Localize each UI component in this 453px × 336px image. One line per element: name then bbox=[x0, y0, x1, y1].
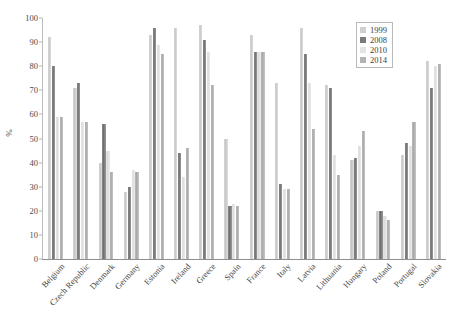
x-tick-label: Greece bbox=[194, 262, 217, 286]
bar bbox=[182, 177, 185, 259]
legend-item: 1999 bbox=[360, 25, 387, 35]
bar bbox=[362, 131, 365, 259]
legend-label: 2010 bbox=[370, 46, 387, 55]
legend-swatch bbox=[360, 57, 366, 63]
legend-item: 2008 bbox=[360, 35, 387, 45]
bar bbox=[48, 37, 51, 259]
bar bbox=[300, 28, 303, 259]
y-tick-label: 40 bbox=[14, 158, 38, 167]
x-tick-label: Portugal bbox=[393, 262, 419, 289]
bar bbox=[337, 175, 340, 259]
bar bbox=[211, 85, 214, 259]
bar bbox=[232, 204, 235, 259]
x-tick-label: Hungary bbox=[342, 262, 369, 290]
bar-group bbox=[194, 18, 219, 259]
bar bbox=[236, 206, 239, 259]
bar bbox=[304, 54, 307, 259]
bar-group bbox=[169, 18, 194, 259]
bar bbox=[412, 122, 415, 259]
bar bbox=[283, 189, 286, 259]
bar bbox=[409, 146, 412, 259]
x-tick-label: Latvia bbox=[297, 262, 318, 284]
bar bbox=[186, 148, 189, 259]
y-tick-label: 100 bbox=[14, 14, 38, 23]
bar bbox=[329, 88, 332, 259]
bar bbox=[426, 61, 429, 259]
bar bbox=[354, 158, 357, 259]
bar bbox=[250, 35, 253, 259]
bar bbox=[275, 83, 278, 259]
bar-group bbox=[219, 18, 244, 259]
bar bbox=[110, 172, 113, 259]
legend-swatch bbox=[360, 47, 366, 53]
bar-group bbox=[295, 18, 320, 259]
bar bbox=[99, 163, 102, 259]
bar bbox=[56, 117, 59, 259]
bar bbox=[405, 143, 408, 259]
bar bbox=[325, 85, 328, 259]
bar bbox=[124, 192, 127, 259]
x-axis-tick-labels: BelgiumCzech RepublicDenmarkGermanyEston… bbox=[0, 262, 453, 336]
bar bbox=[199, 25, 202, 259]
y-tick-label: 60 bbox=[14, 110, 38, 119]
chart-legend: 1999200820102014 bbox=[356, 22, 393, 68]
bar bbox=[358, 146, 361, 259]
bar bbox=[149, 35, 152, 259]
y-tick-label: 10 bbox=[14, 231, 38, 240]
y-tick-label: 50 bbox=[14, 134, 38, 143]
bar bbox=[52, 66, 55, 259]
bar bbox=[81, 122, 84, 259]
bar bbox=[102, 124, 105, 259]
bar-group bbox=[421, 18, 446, 259]
bar bbox=[60, 117, 63, 259]
bar bbox=[401, 155, 404, 259]
x-tick-label: Denmark bbox=[88, 262, 116, 291]
bar bbox=[157, 45, 160, 259]
bar bbox=[434, 66, 437, 259]
bar bbox=[128, 187, 131, 259]
x-tick-label: Estonia bbox=[143, 262, 167, 287]
bar bbox=[430, 88, 433, 259]
bar bbox=[438, 64, 441, 259]
bar bbox=[77, 83, 80, 259]
y-tick-label: 90 bbox=[14, 38, 38, 47]
bar bbox=[312, 129, 315, 259]
bar bbox=[379, 211, 382, 259]
bar-group bbox=[245, 18, 270, 259]
bar bbox=[203, 40, 206, 259]
x-tick-label: Slovakia bbox=[417, 262, 444, 290]
bar bbox=[161, 54, 164, 259]
legend-item: 2014 bbox=[360, 55, 387, 65]
bar-group bbox=[270, 18, 295, 259]
bar bbox=[383, 216, 386, 259]
bar bbox=[228, 206, 231, 259]
bar bbox=[287, 189, 290, 259]
legend-label: 2008 bbox=[370, 36, 387, 45]
bar bbox=[132, 170, 135, 259]
bar bbox=[279, 184, 282, 259]
bar bbox=[333, 155, 336, 259]
bar-group bbox=[119, 18, 144, 259]
legend-label: 1999 bbox=[370, 26, 387, 35]
y-tick-label: 30 bbox=[14, 182, 38, 191]
x-axis-line bbox=[42, 259, 446, 260]
y-tick-label: 70 bbox=[14, 86, 38, 95]
bar bbox=[178, 153, 181, 259]
bar-group bbox=[396, 18, 421, 259]
bar bbox=[254, 52, 257, 259]
bar-group bbox=[144, 18, 169, 259]
x-tick-label: Lithuania bbox=[314, 262, 343, 292]
y-tick-label: 20 bbox=[14, 207, 38, 216]
x-tick-label: Italy bbox=[276, 262, 293, 280]
bar-group bbox=[93, 18, 118, 259]
bar-group bbox=[68, 18, 93, 259]
bar bbox=[207, 52, 210, 259]
bar bbox=[257, 52, 260, 259]
bar bbox=[387, 220, 390, 259]
bar bbox=[174, 28, 177, 259]
x-tick-label: Ireland bbox=[169, 262, 192, 286]
bar bbox=[135, 172, 138, 259]
bar bbox=[350, 160, 353, 259]
legend-swatch bbox=[360, 37, 366, 43]
bar-group bbox=[320, 18, 345, 259]
